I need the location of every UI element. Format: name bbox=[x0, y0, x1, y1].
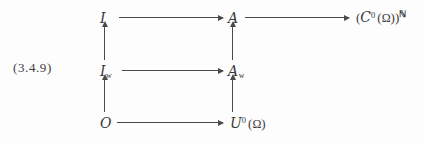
node-zero: O bbox=[100, 116, 111, 130]
node-u-zero-omega: U0(Ω) bbox=[230, 116, 266, 130]
arrow-zero-to-iw-icon bbox=[104, 79, 105, 112]
omega-symbol: Ω bbox=[382, 11, 391, 25]
node-Aw-subscript: w bbox=[239, 71, 245, 80]
power-n-symbol: ℕ bbox=[399, 9, 406, 19]
arrow-zero-to-u0-icon bbox=[117, 122, 223, 123]
commutative-diagram-figure: (3.4.9) I A (C0(Ω))ℕ Iw Aw O U0(Ω) bbox=[0, 0, 424, 144]
arrow-a-to-cn-icon bbox=[245, 17, 349, 18]
node-continuous-functions-power-n: (C0(Ω))ℕ bbox=[356, 10, 407, 24]
u-arg-paren-close: ) bbox=[261, 116, 265, 131]
arrow-u0-to-aw-icon bbox=[232, 79, 233, 112]
arrow-iw-to-aw-icon bbox=[122, 70, 223, 71]
node-U-symbol: U bbox=[230, 115, 242, 131]
arrow-i-to-a-icon bbox=[119, 17, 223, 18]
u-omega-symbol: Ω bbox=[252, 117, 261, 131]
u-superscript-zero: 0 bbox=[242, 115, 246, 125]
node-C-symbol: C bbox=[360, 9, 371, 25]
equation-number: (3.4.9) bbox=[13, 60, 52, 76]
c-superscript-zero: 0 bbox=[371, 10, 375, 20]
arrow-iw-to-i-icon bbox=[104, 26, 105, 60]
arrow-aw-to-a-icon bbox=[232, 26, 233, 60]
node-zero-symbol: O bbox=[100, 115, 111, 131]
